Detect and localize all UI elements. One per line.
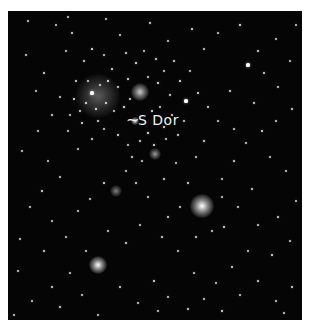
star bbox=[17, 270, 19, 272]
star bbox=[123, 106, 126, 109]
star bbox=[295, 24, 297, 26]
star bbox=[253, 102, 255, 104]
star bbox=[21, 150, 23, 152]
star bbox=[75, 80, 77, 82]
star bbox=[147, 76, 149, 78]
star bbox=[103, 54, 105, 56]
star bbox=[167, 216, 169, 218]
star bbox=[251, 188, 253, 190]
star bbox=[119, 34, 121, 36]
star bbox=[257, 280, 259, 282]
star bbox=[71, 32, 73, 34]
star bbox=[51, 220, 53, 222]
star bbox=[165, 138, 167, 140]
star bbox=[35, 90, 37, 92]
star bbox=[81, 122, 84, 125]
star bbox=[184, 99, 187, 102]
star bbox=[103, 128, 105, 130]
sdor-label: S Dor bbox=[138, 113, 179, 127]
star bbox=[77, 148, 79, 150]
star bbox=[85, 102, 88, 105]
star bbox=[223, 226, 226, 229]
star bbox=[167, 296, 169, 298]
star bbox=[107, 230, 109, 232]
star bbox=[55, 24, 57, 26]
star bbox=[135, 182, 137, 184]
star bbox=[117, 86, 119, 88]
star bbox=[81, 294, 83, 296]
star bbox=[97, 120, 99, 122]
star bbox=[221, 310, 224, 313]
star bbox=[197, 92, 200, 95]
star bbox=[111, 68, 114, 71]
bright-star-lower-left bbox=[89, 256, 107, 274]
star bbox=[217, 32, 219, 34]
star bbox=[59, 176, 61, 178]
star bbox=[193, 272, 195, 274]
star bbox=[67, 16, 69, 18]
star bbox=[269, 156, 271, 158]
star bbox=[175, 162, 177, 164]
star bbox=[147, 196, 149, 198]
star bbox=[31, 300, 33, 302]
star bbox=[65, 236, 67, 238]
star bbox=[19, 238, 21, 240]
star bbox=[275, 300, 277, 302]
star bbox=[277, 86, 279, 88]
star bbox=[275, 38, 277, 40]
star bbox=[239, 24, 242, 27]
star bbox=[99, 84, 101, 86]
star bbox=[217, 120, 219, 122]
star bbox=[246, 63, 249, 66]
star bbox=[90, 91, 93, 94]
star bbox=[211, 230, 213, 232]
star bbox=[153, 280, 156, 283]
star bbox=[285, 170, 287, 172]
star bbox=[13, 314, 15, 316]
star bbox=[69, 114, 71, 116]
star bbox=[295, 200, 297, 202]
star bbox=[159, 106, 161, 108]
star bbox=[77, 210, 79, 212]
star bbox=[163, 70, 165, 72]
star bbox=[177, 250, 179, 252]
star bbox=[169, 94, 171, 96]
star bbox=[37, 130, 39, 132]
star bbox=[51, 286, 53, 288]
star bbox=[67, 130, 69, 132]
star bbox=[51, 114, 53, 116]
star bbox=[289, 240, 291, 242]
star bbox=[135, 62, 138, 65]
star bbox=[127, 78, 130, 81]
star bbox=[163, 178, 165, 180]
star bbox=[131, 156, 133, 158]
star bbox=[29, 206, 31, 208]
star bbox=[167, 40, 169, 42]
star bbox=[183, 120, 185, 122]
star bbox=[143, 50, 145, 52]
star bbox=[229, 90, 231, 92]
astronomical-photo: ~ S Dor bbox=[8, 11, 302, 320]
star bbox=[177, 134, 179, 136]
star bbox=[25, 54, 27, 56]
star bbox=[233, 160, 235, 162]
star bbox=[231, 266, 233, 268]
star bbox=[261, 130, 264, 133]
star bbox=[203, 48, 205, 50]
star bbox=[73, 98, 76, 101]
star bbox=[127, 144, 129, 146]
star bbox=[179, 206, 181, 208]
star bbox=[157, 310, 159, 312]
star bbox=[95, 108, 98, 111]
star bbox=[87, 80, 89, 82]
star bbox=[149, 22, 151, 24]
star bbox=[129, 98, 131, 100]
star bbox=[97, 314, 99, 316]
star bbox=[89, 198, 91, 200]
star bbox=[161, 236, 163, 238]
star bbox=[91, 48, 94, 51]
star bbox=[187, 182, 190, 185]
star bbox=[179, 80, 182, 83]
star bbox=[239, 294, 241, 296]
star bbox=[189, 70, 191, 72]
